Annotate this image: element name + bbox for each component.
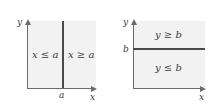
boundary-line-y-equals-b — [133, 48, 205, 50]
x-axis-line — [27, 88, 92, 89]
x-axis-label: x — [199, 93, 204, 102]
x-axis-arrowhead-icon — [200, 86, 206, 92]
x-axis-label: x — [90, 93, 95, 102]
y-axis-arrowhead-icon — [25, 19, 31, 25]
panel-horizontal-boundary: y x b y ≥ b y ≤ b — [108, 0, 216, 105]
region-label-x-ge-a: x ≥ a — [68, 50, 94, 60]
y-axis-line — [27, 25, 28, 89]
tick-label-a: a — [59, 91, 64, 100]
y-axis-label: y — [17, 18, 22, 27]
y-axis-label: y — [123, 18, 128, 27]
tick-label-b: b — [123, 45, 129, 54]
region-label-y-le-b: y ≤ b — [155, 63, 182, 73]
x-axis-line — [133, 88, 201, 89]
y-axis-line — [133, 25, 134, 89]
region-label-x-le-a: x ≤ a — [32, 50, 58, 60]
inequality-regions-figure: y x a x ≤ a x ≥ a y x b y ≥ b y ≤ b — [0, 0, 216, 105]
y-axis-arrowhead-icon — [131, 19, 137, 25]
region-label-y-ge-b: y ≥ b — [155, 30, 182, 40]
boundary-line-x-equals-a — [62, 21, 64, 88]
panel-vertical-boundary: y x a x ≤ a x ≥ a — [0, 0, 108, 105]
x-axis-arrowhead-icon — [91, 86, 97, 92]
